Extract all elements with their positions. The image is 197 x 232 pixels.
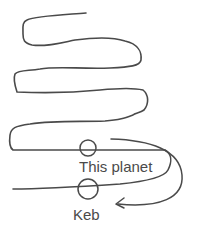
keb-marker-circle [78, 179, 98, 199]
arrow-head-icon [116, 198, 124, 208]
this-planet-marker-circle [80, 140, 96, 156]
this-planet-label: This planet [79, 158, 153, 175]
keb-label: Keb [73, 206, 100, 223]
diagram-canvas: This planet Keb [0, 0, 197, 232]
